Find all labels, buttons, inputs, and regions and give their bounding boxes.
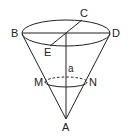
label-m: M [34, 76, 43, 88]
cone-diagram: B C D E M N a A [0, 0, 129, 136]
slant-side-da [66, 34, 110, 119]
label-d: D [112, 27, 120, 39]
label-a-apex: A [62, 121, 70, 133]
label-n: N [89, 76, 97, 88]
label-e: E [44, 46, 51, 58]
label-c: C [80, 7, 88, 19]
label-a-height: a [68, 63, 74, 74]
label-b: B [11, 27, 18, 39]
